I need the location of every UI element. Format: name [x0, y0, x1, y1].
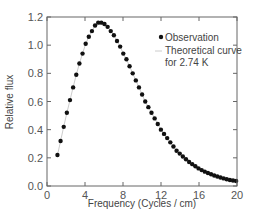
x-tick-label: 0 — [44, 189, 50, 201]
observation-point — [87, 35, 91, 39]
observation-point — [143, 99, 147, 103]
observation-point — [162, 132, 166, 136]
y-tick-label: 0.6 — [28, 96, 43, 108]
y-tick-label: 1.2 — [28, 11, 43, 23]
observation-point — [165, 136, 169, 140]
observation-point — [74, 73, 78, 77]
observation-point — [124, 57, 128, 61]
observation-point — [112, 33, 116, 37]
observation-point — [149, 111, 153, 115]
observation-point — [115, 39, 119, 43]
observation-point — [65, 111, 69, 115]
x-tick-label: 20 — [231, 189, 243, 201]
observation-point — [105, 25, 109, 29]
observation-point — [109, 29, 113, 33]
observation-point — [77, 61, 81, 65]
observation-point — [159, 127, 163, 131]
observation-point — [171, 144, 175, 148]
observation-point — [68, 98, 72, 102]
observation-point — [90, 29, 94, 33]
observation-point — [134, 78, 138, 82]
y-axis-title: Relative flux — [4, 75, 15, 129]
observation-point — [137, 85, 141, 89]
observation-point — [130, 71, 134, 75]
y-tick-label: 0.2 — [28, 152, 43, 164]
observation-point — [83, 42, 87, 46]
observation-point — [168, 140, 172, 144]
observation-point — [58, 139, 62, 143]
observation-point — [156, 122, 160, 126]
y-tick-label: 0.8 — [28, 67, 43, 79]
y-tick-label: 0.4 — [28, 124, 43, 136]
observation-marker-icon — [159, 35, 163, 39]
observation-point — [146, 105, 150, 109]
observation-point — [62, 125, 66, 129]
legend-theory-label-line2: for 2.74 K — [165, 57, 209, 68]
y-tick-label: 1.0 — [28, 39, 43, 51]
observation-point — [127, 64, 131, 68]
observation-point — [234, 179, 238, 183]
legend-observation-label: Observation — [165, 32, 219, 43]
observation-point — [121, 51, 125, 55]
x-axis-title: Frequency (Cycles / cm) — [88, 198, 196, 209]
chart: 048121620 0.00.20.40.60.81.01.2 Frequenc… — [0, 0, 257, 214]
observation-point — [140, 92, 144, 96]
y-tick-label: 0.0 — [28, 180, 43, 192]
observation-point — [118, 44, 122, 48]
observation-point — [80, 51, 84, 55]
legend: Observation Theoretical curve for 2.74 K — [155, 32, 242, 69]
observation-point — [152, 116, 156, 120]
legend-theory-label-line1: Theoretical curve — [165, 45, 242, 56]
observation-point — [71, 85, 75, 89]
observation-point — [55, 153, 59, 157]
